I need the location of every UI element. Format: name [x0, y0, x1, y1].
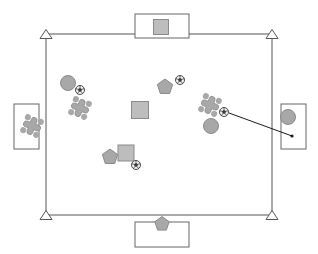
cross-lobe-2	[67, 108, 75, 116]
pass-endpoint-marker	[290, 134, 293, 137]
token-circle-upper-left[interactable]	[61, 76, 76, 91]
corner-markers	[40, 30, 278, 220]
token-ball-lower[interactable]	[132, 161, 141, 170]
goal-box-top-occupant-square[interactable]	[154, 20, 169, 35]
field-boundary	[46, 34, 272, 215]
token-ball-right[interactable]	[220, 108, 229, 117]
token-cross-left[interactable]	[67, 95, 92, 120]
soccer-field-diagram	[0, 0, 318, 254]
cross-lobe-0	[202, 92, 210, 100]
token-cross-right[interactable]	[197, 92, 222, 117]
field-tokens	[61, 76, 229, 170]
token-square-centre[interactable]	[132, 102, 149, 119]
token-circle-right[interactable]	[204, 119, 219, 134]
token-ball-upper-left[interactable]	[76, 86, 85, 95]
cross-lobe-0	[72, 95, 80, 103]
token-pentagon-lower[interactable]	[102, 149, 117, 163]
goal-boxes	[14, 14, 306, 247]
diagram-canvas	[0, 0, 318, 254]
cross-lobe-2	[197, 105, 205, 113]
cross-lobe-3	[80, 113, 88, 121]
goal-occupants	[19, 20, 295, 231]
token-square-lower[interactable]	[118, 145, 134, 161]
token-ball-upper-right[interactable]	[176, 76, 185, 85]
cross-lobe-1	[215, 97, 223, 105]
field-boundary-rect	[46, 34, 272, 215]
token-pentagon-upper[interactable]	[157, 79, 172, 93]
goal-box-right-occupant-circle[interactable]	[281, 110, 296, 125]
goal-box-bottom-occupant-pentagon[interactable]	[155, 217, 169, 231]
cross-lobe-3	[210, 110, 218, 118]
cross-lobe-1	[85, 100, 93, 108]
